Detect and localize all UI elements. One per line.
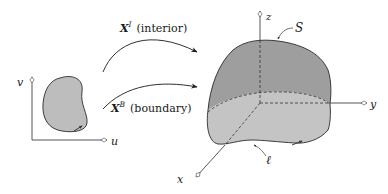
x-axis-label: x <box>177 173 184 186</box>
x-axis <box>196 145 225 177</box>
y-axis-label: y <box>369 98 377 111</box>
physical-volume: x z y S ℓ <box>177 11 377 186</box>
surface-pointer <box>278 28 293 39</box>
interior-map-arrow <box>103 40 197 72</box>
u-axis-label: u <box>111 135 118 148</box>
map-boundary: XB(boundary) <box>103 84 197 115</box>
parameter-domain: v u <box>17 76 118 148</box>
boundary-map-label: XB(boundary) <box>110 100 192 115</box>
curve-pointer <box>254 145 266 156</box>
curve-label: ℓ <box>266 153 271 167</box>
parameter-region <box>43 77 87 132</box>
surface-label: S <box>295 21 303 35</box>
v-axis-label: v <box>17 76 24 89</box>
z-axis-label: z <box>265 11 272 22</box>
map-interior: XI(interior) <box>103 20 197 72</box>
interior-map-label: XI(interior) <box>119 20 187 35</box>
parametric-mapping-diagram: v u XI(interior) XB(boundary) x <box>0 0 388 194</box>
